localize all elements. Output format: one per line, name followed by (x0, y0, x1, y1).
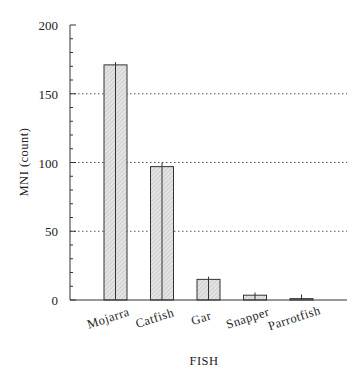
x-category-label: Gar (189, 308, 213, 328)
y-tick-labels: 050100150200 (39, 18, 59, 308)
x-category-label: Mojarra (85, 305, 131, 332)
x-axis-title: FISH (189, 354, 218, 368)
x-category-label: Parrotfish (266, 303, 322, 333)
y-tick-label: 150 (39, 87, 59, 102)
bars (104, 62, 313, 300)
x-category-label: Catfish (134, 305, 176, 331)
y-tick-label: 200 (39, 18, 59, 33)
y-tick-label: 50 (45, 224, 58, 239)
bar-chart: 050100150200 MojarraCatfishGarSnapperPar… (0, 0, 362, 372)
x-category-labels: MojarraCatfishGarSnapperParrotfish (85, 303, 322, 333)
x-category-label: Snapper (224, 305, 271, 332)
y-tick-label: 0 (52, 293, 59, 308)
y-tick-label: 100 (39, 156, 59, 171)
y-axis-title: MNI (count) (17, 127, 31, 196)
